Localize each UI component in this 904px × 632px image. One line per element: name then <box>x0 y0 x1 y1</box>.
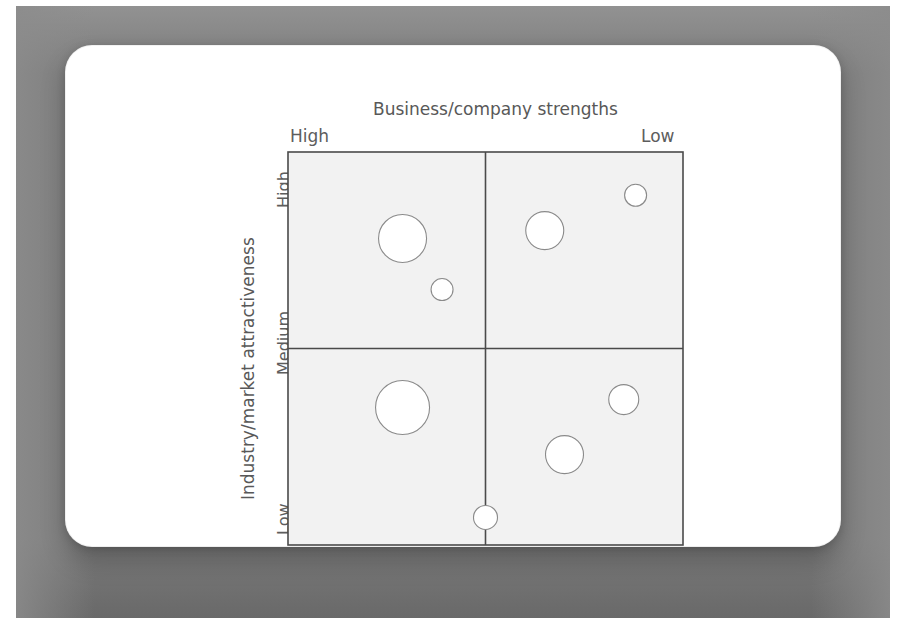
white-card-panel <box>66 46 840 546</box>
page-root: Business/company strengths High Low Indu… <box>0 0 904 632</box>
